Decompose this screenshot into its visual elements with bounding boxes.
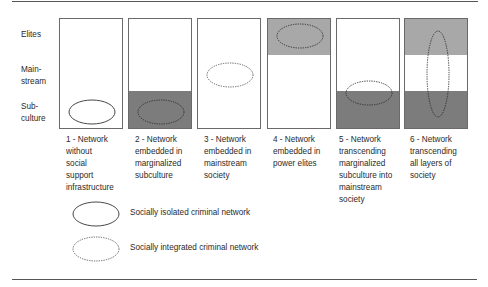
legend-item-isolated: Socially isolated criminal network [68,201,428,227]
legend-item-integrated: Socially integrated criminal network [68,236,428,262]
panel-4-caption: 4 - Network embedded in power elites [273,134,341,170]
caption-line: all layers of [410,158,478,170]
dotted-ellipse-icon [337,19,400,129]
row-label-line: Elites [21,29,41,41]
row-label-line: stream [21,76,46,88]
bottom-rule [12,279,477,280]
caption-line: 6 - Network [410,134,478,146]
caption-line: 5 - Network [339,134,407,146]
caption-line: society [204,170,272,182]
caption-line: 2 - Network [135,134,203,146]
caption-line: 1 - Network [66,134,134,146]
row-label-mainstream: Main- stream [21,64,46,88]
caption-line: transcending [339,146,407,158]
row-label-line: culture [21,113,46,125]
caption-line: embedded in [135,146,203,158]
dotted-ellipse-icon [129,19,192,129]
caption-line: 4 - Network [273,134,341,146]
legend-label: Socially isolated criminal network [130,208,250,217]
row-label-subculture: Sub- culture [21,101,46,125]
panel-5-caption: 5 - Network transcending marginalized su… [339,134,407,206]
caption-line: marginalized [135,158,203,170]
caption-line: social [66,158,134,170]
panel-2-box [128,18,192,129]
dotted-ellipse-icon [68,236,124,262]
caption-line: marginalized [339,158,407,170]
top-rule [12,1,478,2]
caption-line: society [410,170,478,182]
panel-5-box [336,18,400,129]
caption-line: transcending [410,146,478,158]
caption-line: subculture into [339,170,407,182]
dotted-ellipse-icon [268,19,331,129]
caption-line: mainstream [339,182,407,194]
caption-line: power elites [273,158,341,170]
solid-ellipse-icon [60,19,123,129]
panel-1-caption: 1 - Network without social support infra… [66,134,134,194]
row-label-elites: Elites [21,29,41,41]
row-label-line: Sub- [21,101,46,113]
row-label-line: Main- [21,64,46,76]
caption-line: without [66,146,134,158]
dotted-ellipse-icon [405,19,468,129]
caption-line: embedded in [204,146,272,158]
caption-line: support [66,170,134,182]
caption-line: mainstream [204,158,272,170]
caption-line: embedded in [273,146,341,158]
panel-6-box [404,18,468,129]
panel-3-caption: 3 - Network embedded in mainstream socie… [204,134,272,182]
panel-3-box [197,18,261,129]
caption-line: 3 - Network [204,134,272,146]
caption-line: infrastructure [66,182,134,194]
caption-line: subculture [135,170,203,182]
panel-2-caption: 2 - Network embedded in marginalized sub… [135,134,203,182]
dotted-ellipse-icon [198,19,261,129]
panel-6-caption: 6 - Network transcending all layers of s… [410,134,478,182]
panel-1-box [59,18,123,129]
panel-4-box [267,18,331,129]
legend-label: Socially integrated criminal network [130,243,258,252]
solid-ellipse-icon [68,201,124,227]
